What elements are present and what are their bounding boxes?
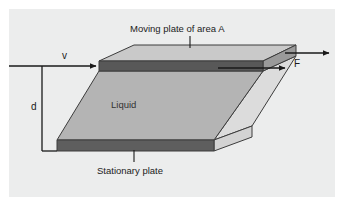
moving-plate-front-face [99,61,263,71]
stationary-plate-label: Stationary plate [97,165,163,176]
viscosity-diagram: Liquid v d F [0,0,344,210]
force-label: F [294,58,300,69]
stationary-plate-front-face [57,140,214,151]
moving-plate-top-face [99,45,296,61]
figure-container: Liquid v d F [0,0,344,210]
liquid-label: Liquid [111,99,136,110]
velocity-label: v [62,50,67,61]
thickness-label: d [31,101,37,112]
moving-plate-label: Moving plate of area A [130,23,225,34]
